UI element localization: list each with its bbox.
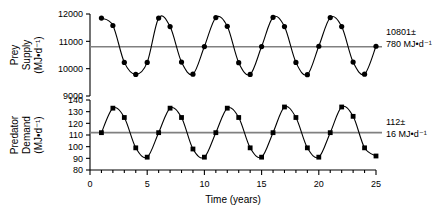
- data-point-marker: [133, 72, 138, 77]
- y-tick-label: 110: [69, 130, 83, 140]
- x-tick-label: 0: [87, 179, 92, 189]
- prey-supply-label-line-3: (MJ•d⁻¹): [33, 36, 44, 73]
- x-tick-label: 20: [314, 179, 324, 189]
- x-tick-label: 10: [199, 179, 209, 189]
- predator-demand-y-axis-title: Predator Demand (MJ•d⁻¹): [9, 115, 44, 154]
- data-point-marker: [167, 24, 172, 29]
- figure-container: 9000100001100012000 Prey Supply (MJ•d⁻¹)…: [0, 0, 447, 210]
- data-point-marker: [156, 130, 161, 135]
- data-point-marker: [270, 15, 275, 20]
- data-point-marker: [110, 106, 115, 111]
- data-point-marker: [282, 105, 287, 110]
- data-point-marker: [339, 24, 344, 29]
- prey-supply-annotation-line-2: 780 MJ•d⁻¹: [386, 39, 432, 49]
- data-point-marker: [248, 72, 253, 77]
- x-tick-label: 5: [145, 179, 150, 189]
- data-point-marker: [305, 145, 310, 150]
- y-tick-label: 10000: [58, 64, 83, 74]
- x-tick-label: 25: [371, 179, 381, 189]
- data-point-marker: [133, 145, 138, 150]
- data-point-marker: [293, 60, 298, 65]
- prey-supply-label-line-2: Supply: [21, 40, 32, 71]
- data-point-marker: [179, 60, 184, 65]
- data-point-marker: [328, 130, 333, 135]
- x-axis-title: Time (years): [205, 194, 261, 205]
- data-point-marker: [145, 60, 150, 65]
- data-point-marker: [191, 147, 196, 152]
- data-point-marker: [110, 23, 115, 28]
- data-point-marker: [179, 115, 184, 120]
- data-point-marker: [351, 60, 356, 65]
- data-point-marker: [145, 155, 150, 160]
- x-tick-label: 15: [257, 179, 267, 189]
- y-tick-label: 12000: [58, 9, 83, 19]
- data-point-marker: [316, 44, 321, 49]
- data-point-marker: [351, 114, 356, 119]
- data-point-marker: [373, 44, 378, 49]
- data-point-marker: [236, 60, 241, 65]
- data-point-marker: [99, 130, 104, 135]
- predator-demand-annotation-line-1: 112±: [386, 117, 405, 127]
- data-point-marker: [259, 155, 264, 160]
- data-point-marker: [213, 15, 218, 20]
- data-point-marker: [99, 16, 104, 21]
- data-point-marker: [305, 72, 310, 77]
- y-tick-label: 130: [68, 107, 83, 117]
- y-tick-label: 120: [68, 119, 83, 129]
- data-point-marker: [236, 115, 241, 120]
- data-point-marker: [316, 155, 321, 160]
- data-point-marker: [156, 16, 161, 21]
- data-point-marker: [202, 44, 207, 49]
- data-point-marker: [190, 72, 195, 77]
- predator-demand-annotation-line-2: 16 MJ•d⁻¹: [386, 129, 427, 139]
- chart-canvas: 9000100001100012000 Prey Supply (MJ•d⁻¹)…: [0, 0, 447, 210]
- data-point-marker: [225, 106, 230, 111]
- data-point-marker: [202, 155, 207, 160]
- data-point-marker: [225, 24, 230, 29]
- y-tick-label: 11000: [59, 37, 83, 47]
- predator-demand-label-line-3: (MJ•d⁻¹): [33, 116, 44, 153]
- y-tick-label: 80: [73, 165, 83, 175]
- predator-demand-label-line-1: Predator: [9, 115, 20, 154]
- data-point-marker: [362, 72, 367, 77]
- data-point-marker: [259, 44, 264, 49]
- data-point-marker: [339, 105, 344, 110]
- y-tick-label: 90: [73, 154, 83, 164]
- data-point-marker: [168, 106, 173, 111]
- data-point-marker: [294, 115, 299, 120]
- data-point-marker: [122, 60, 127, 65]
- data-point-marker: [122, 115, 127, 120]
- data-point-marker: [282, 24, 287, 29]
- data-point-marker: [271, 130, 276, 135]
- data-point-marker: [374, 154, 379, 159]
- y-tick-label: 140: [68, 95, 83, 105]
- y-tick-label: 100: [68, 142, 83, 152]
- data-point-marker: [248, 145, 253, 150]
- data-point-marker: [362, 145, 367, 150]
- predator-demand-label-line-2: Demand: [21, 116, 32, 154]
- prey-supply-label-line-1: Prey: [9, 45, 20, 66]
- data-point-marker: [328, 15, 333, 20]
- data-point-marker: [213, 130, 218, 135]
- prey-supply-annotation-line-1: 10801±: [386, 27, 416, 37]
